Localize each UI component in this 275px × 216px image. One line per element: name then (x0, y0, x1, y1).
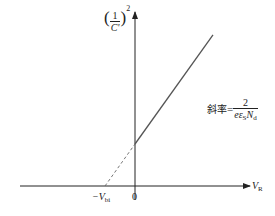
slope-prefix: 斜率 (207, 104, 227, 115)
slope-den-sub-d: d (253, 114, 257, 122)
measured-solid-line (135, 35, 213, 144)
slope-denominator: eεSNd (233, 108, 257, 122)
slope-den-e-eps: eε (234, 109, 242, 120)
y-label-exponent: 2 (126, 4, 130, 13)
slope-fraction: 2eεSNd (233, 98, 257, 122)
y-label-fraction: 1C' (110, 11, 121, 33)
slope-numerator: 2 (242, 98, 249, 108)
extrapolation-dashed-line (105, 144, 135, 186)
intercept-sub: bi (105, 196, 110, 204)
intercept-label: −Vbi (92, 191, 110, 204)
y-label-denominator: C' (110, 21, 121, 33)
slope-label: 斜率=2eεSNd (207, 98, 258, 122)
x-label-sub: R (258, 185, 263, 193)
intercept-main: −V (92, 191, 105, 202)
y-label-numerator: 1 (112, 11, 119, 21)
y-axis-label: (1C')2 (104, 4, 130, 33)
origin-label: 0 (132, 191, 137, 202)
x-axis-label: VR (252, 180, 263, 193)
